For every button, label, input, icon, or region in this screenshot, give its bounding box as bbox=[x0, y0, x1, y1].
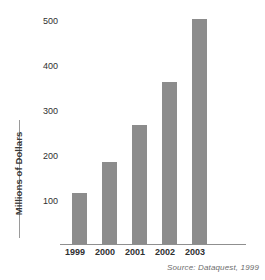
y-tick-label: 400 bbox=[24, 61, 58, 71]
x-tick-label-2001: 2001 bbox=[118, 247, 152, 258]
bar-chart-figure: Millions of Dollars 500 400 300 200 100 … bbox=[0, 0, 265, 280]
y-axis-tick-labels: 500 400 300 200 100 bbox=[24, 0, 58, 280]
y-tick-label: 200 bbox=[24, 151, 58, 161]
x-tick-label-2003: 2003 bbox=[178, 247, 212, 258]
bar-2001 bbox=[132, 125, 147, 244]
y-tick-label: 300 bbox=[24, 106, 58, 116]
y-tick-label: 100 bbox=[24, 196, 58, 206]
y-axis-label: Millions of Dollars bbox=[13, 114, 24, 234]
y-tick-label: 500 bbox=[24, 16, 58, 26]
x-tick-label-2000: 2000 bbox=[88, 247, 122, 258]
bar-2000 bbox=[102, 162, 117, 244]
bar-series bbox=[62, 14, 244, 244]
source-note: Source: Dataquest, 1999 bbox=[167, 263, 259, 272]
bar-2002 bbox=[162, 82, 177, 244]
bar-1999 bbox=[72, 193, 87, 244]
y-axis-label-group: Millions of Dollars bbox=[0, 120, 22, 240]
x-axis-tick-labels: 1999 2000 2001 2002 2003 bbox=[56, 247, 252, 261]
x-tick-label-2002: 2002 bbox=[148, 247, 182, 258]
x-tick-label-1999: 1999 bbox=[58, 247, 92, 258]
bar-2003 bbox=[192, 19, 207, 244]
x-axis-line bbox=[60, 244, 246, 245]
